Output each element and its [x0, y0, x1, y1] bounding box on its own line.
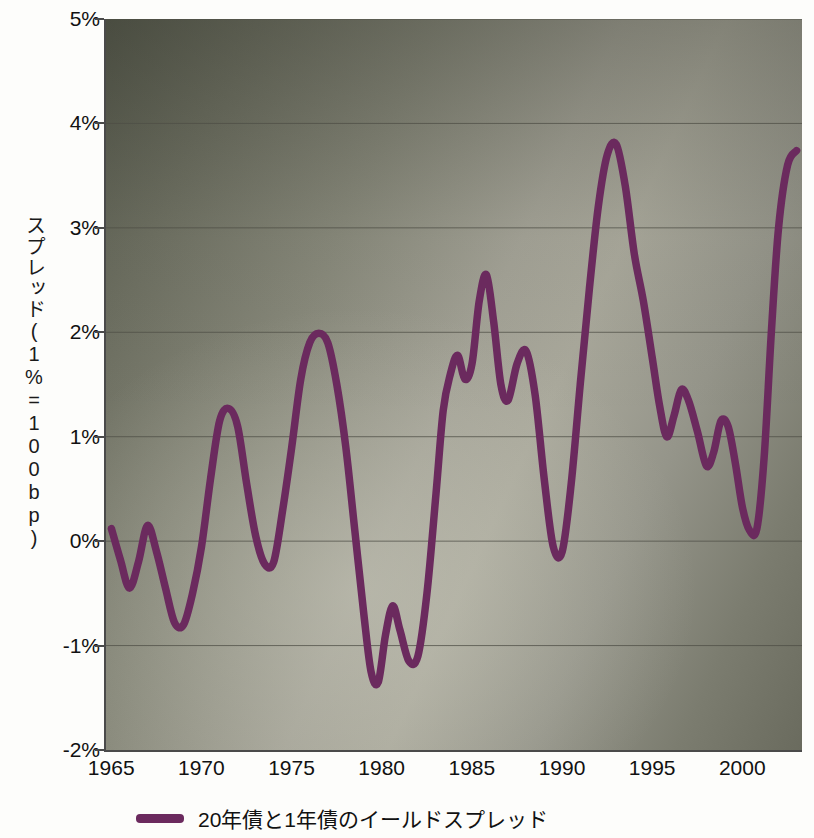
y-axis-tick-label: 4% [38, 111, 100, 135]
legend-label: 20年債と1年債のイールドスプレッド [198, 803, 548, 833]
y-axis-tick-label: 3% [38, 216, 100, 240]
x-axis-tick-label: 1995 [629, 756, 676, 780]
y-axis-tick-label: 0% [38, 529, 100, 553]
x-axis-tick-label-group: 19651970197519801985199019952000 [0, 756, 814, 788]
chart-legend: 20年債と1年債のイールドスプレッド [0, 798, 814, 838]
y-axis-tick-label: -1% [38, 634, 100, 658]
y-axis-tick-label-group: 5%4%3%2%1%0%-1%-2% [34, 0, 100, 838]
y-axis-tick-label: 5% [38, 7, 100, 31]
plot-svg [106, 19, 802, 750]
y-axis-tick-mark [95, 331, 104, 333]
y-axis-tick-mark [95, 122, 104, 124]
y-axis-tick-mark [95, 645, 104, 647]
x-axis-tick-label: 1980 [358, 756, 405, 780]
x-axis-tick-label: 1965 [88, 756, 135, 780]
y-axis-tick-mark [95, 540, 104, 542]
y-axis-tick-mark [95, 749, 104, 751]
gridline-group [106, 19, 802, 646]
y-axis-tick-mark [95, 436, 104, 438]
chart-container: スプレッド(1%=100bp) 5%4%3%2%1%0%-1%-2% 19651… [0, 0, 814, 838]
x-axis-tick-label: 1985 [448, 756, 495, 780]
plot-area [104, 19, 802, 752]
series-line-yield-spread [111, 142, 796, 684]
y-axis-tick-mark [95, 18, 104, 20]
y-axis-tick-label: 1% [38, 425, 100, 449]
y-axis-tick-mark [95, 227, 104, 229]
y-axis-tick-label: 2% [38, 320, 100, 344]
x-axis-tick-label: 1970 [178, 756, 225, 780]
legend-color-swatch [136, 814, 184, 823]
x-axis-tick-label: 1990 [539, 756, 586, 780]
x-axis-tick-label: 2000 [719, 756, 766, 780]
x-axis-tick-label: 1975 [268, 756, 315, 780]
